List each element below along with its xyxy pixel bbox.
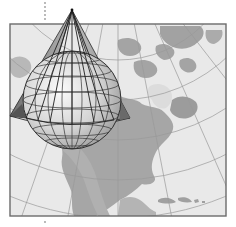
axis-bottom-dot — [44, 221, 46, 223]
conic-projection-figure — [0, 0, 236, 227]
illustration-canvas — [0, 0, 236, 227]
cone-apex — [71, 9, 74, 12]
